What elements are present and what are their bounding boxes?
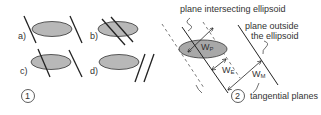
case-a-label: a) (18, 32, 26, 41)
label-plane-intersecting: plane intersecting ellipsoid (180, 5, 286, 14)
case-d (99, 54, 154, 82)
wp-base: W (201, 42, 210, 52)
we-base: W (222, 65, 231, 75)
case-c (31, 49, 82, 77)
case-a (24, 16, 82, 43)
label-wm: WM (252, 70, 266, 79)
label-plane-outside-2: the ellipsoid (251, 32, 299, 41)
case-b (98, 17, 138, 45)
case-c-label: c) (20, 67, 28, 76)
wp-sub: P (210, 46, 214, 52)
we-sub: E (231, 69, 235, 75)
label-plane-outside-1: plane outside (245, 22, 299, 31)
wm-sub: M (261, 73, 266, 79)
label-tangential-planes: tangential planes (250, 92, 318, 101)
case-d-label: d) (90, 67, 98, 76)
panel1-number: 1 (25, 92, 30, 101)
panel2-number: 2 (235, 92, 240, 101)
label-wp: WP (201, 43, 214, 52)
label-we: WE (222, 66, 235, 75)
case-b-label: b) (90, 32, 98, 41)
wm-base: W (252, 69, 261, 79)
